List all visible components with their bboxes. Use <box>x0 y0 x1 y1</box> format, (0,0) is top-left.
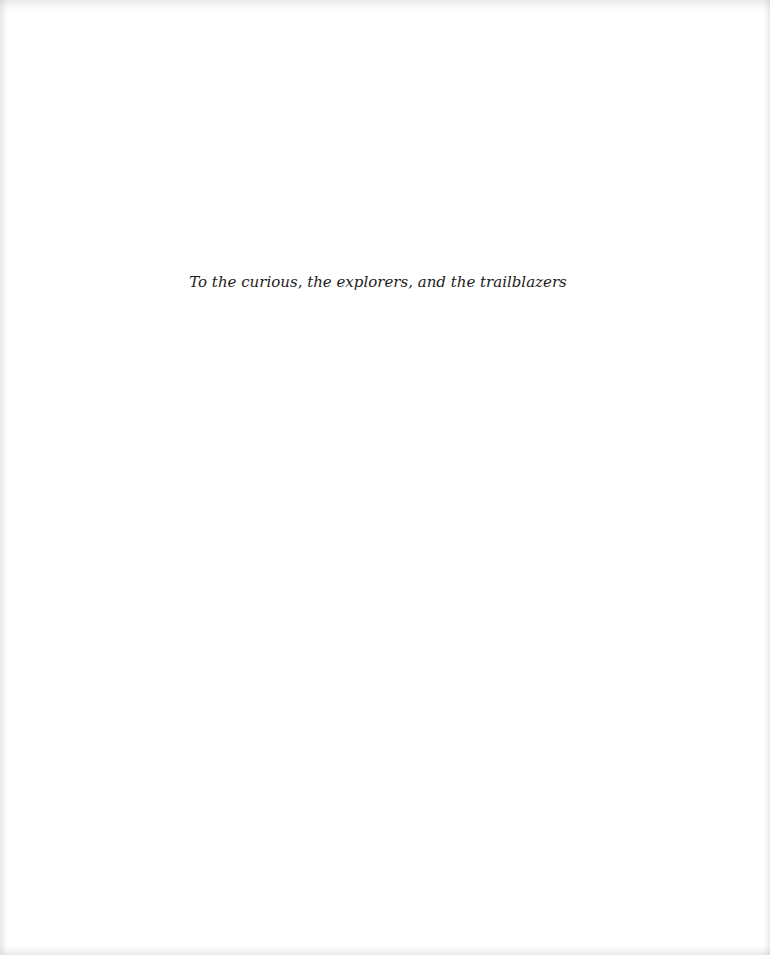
dedication-text: To the curious, the explorers, and the t… <box>0 272 756 292</box>
page-top-edge-shadow <box>0 0 770 14</box>
page-bottom-edge-shadow <box>0 945 770 955</box>
page-left-edge-shadow <box>0 0 8 955</box>
book-page: To the curious, the explorers, and the t… <box>0 0 770 955</box>
page-right-edge-shadow <box>764 0 770 955</box>
